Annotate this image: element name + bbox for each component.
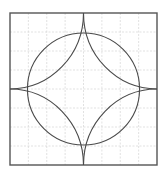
geometry-diagram: [0, 0, 167, 176]
grid: [10, 13, 157, 165]
